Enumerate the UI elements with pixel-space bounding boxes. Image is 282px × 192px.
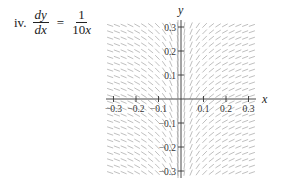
- slope-segment: [242, 101, 248, 103]
- y-tick-label: −0.3: [159, 167, 176, 177]
- slope-segment: [249, 56, 255, 58]
- slope-segment: [235, 120, 241, 122]
- slope-segment: [170, 157, 172, 163]
- slope-segment: [107, 82, 113, 84]
- slope-segment: [202, 62, 206, 67]
- slope-segment: [107, 127, 113, 129]
- slope-segment: [215, 36, 220, 39]
- slope-segment: [148, 164, 153, 168]
- slope-segment: [235, 127, 241, 129]
- slope-segment: [170, 99, 172, 105]
- slope-segment: [249, 165, 255, 167]
- x-tick-label: 0.2: [220, 104, 232, 114]
- slope-segment: [190, 106, 192, 112]
- slope-segment: [190, 131, 192, 137]
- slope-segment: [114, 146, 120, 148]
- slope-segment: [202, 119, 206, 124]
- slope-segment: [148, 145, 153, 149]
- slope-segment: [114, 165, 120, 167]
- slope-segment: [222, 94, 228, 97]
- slope-segment: [141, 30, 146, 33]
- slope-segment: [134, 49, 140, 52]
- slope-segment: [121, 43, 127, 45]
- slope-segment: [127, 94, 133, 97]
- slope-segment: [121, 159, 127, 161]
- slope-segment: [184, 118, 185, 124]
- slope-segment: [229, 75, 235, 78]
- x-tick-label: −0.3: [105, 104, 122, 114]
- slope-segment: [222, 139, 228, 142]
- slope-segment: [235, 165, 241, 167]
- slope-segment: [155, 49, 159, 54]
- slope-segment: [127, 158, 133, 161]
- slope-segment: [127, 152, 133, 155]
- slope-segment: [196, 132, 200, 137]
- slope-segment: [184, 22, 185, 28]
- slope-segment: [249, 82, 255, 84]
- slope-segment: [148, 132, 153, 136]
- slope-segment: [141, 171, 146, 174]
- slope-segment: [249, 146, 255, 148]
- y-tick-label: −0.2: [159, 143, 176, 153]
- slope-segment: [148, 43, 153, 47]
- slope-segment: [196, 23, 200, 28]
- slope-segment: [141, 24, 146, 27]
- slope-segment: [196, 68, 200, 73]
- slope-segment: [202, 30, 206, 35]
- slope-segment: [148, 30, 153, 34]
- slope-segment: [121, 75, 127, 77]
- slope-segment: [134, 24, 140, 27]
- slope-segment: [107, 76, 113, 78]
- slope-segment: [141, 68, 146, 71]
- slope-segment: [222, 88, 228, 91]
- slope-segment: [184, 112, 185, 118]
- slope-segment: [202, 138, 206, 143]
- slope-segment: [134, 75, 140, 78]
- slope-segment: [170, 35, 172, 41]
- slope-segment: [196, 119, 200, 124]
- slope-segment: [107, 120, 113, 122]
- y-tick-label: 0.3: [164, 23, 176, 33]
- slope-segment: [127, 114, 133, 117]
- slope-segment: [235, 146, 241, 148]
- slope-segment: [134, 165, 140, 168]
- slope-segment: [190, 22, 192, 28]
- slope-segment: [235, 133, 241, 135]
- slope-segment: [114, 152, 120, 154]
- slope-segment: [209, 151, 214, 155]
- slope-segment: [249, 69, 255, 71]
- slope-segment: [121, 133, 127, 135]
- slope-segment: [222, 145, 228, 148]
- slope-segment: [107, 44, 113, 46]
- x-tick-label: 0.3: [243, 104, 255, 114]
- slope-segment: [222, 49, 228, 52]
- slope-segment: [209, 75, 214, 79]
- slope-segment: [202, 158, 206, 163]
- slope-segment: [107, 95, 113, 97]
- slope-segment: [148, 68, 153, 72]
- slope-segment: [141, 139, 146, 142]
- x-axis-label: x: [261, 92, 268, 106]
- slope-segment: [162, 157, 166, 162]
- slope-segment: [134, 62, 140, 65]
- slope-segment: [134, 30, 140, 33]
- slope-segment: [121, 165, 127, 167]
- slope-segment: [190, 99, 192, 105]
- slope-segment: [249, 140, 255, 142]
- slope-segment: [114, 95, 120, 97]
- slope-segment: [242, 127, 248, 129]
- slope-segment: [155, 55, 159, 60]
- slope-segment: [229, 62, 235, 65]
- slope-segment: [215, 158, 220, 161]
- slope-segment: [155, 81, 159, 86]
- slope-segment: [114, 127, 120, 129]
- slope-segment: [229, 50, 235, 53]
- slope-segment: [209, 119, 214, 123]
- slope-segment: [242, 88, 248, 90]
- slope-segment: [148, 171, 153, 175]
- slope-segment: [107, 50, 113, 52]
- slope-segment: [249, 127, 255, 129]
- slope-segment: [107, 152, 113, 154]
- slope-segment: [222, 62, 228, 65]
- slope-segment: [141, 88, 146, 91]
